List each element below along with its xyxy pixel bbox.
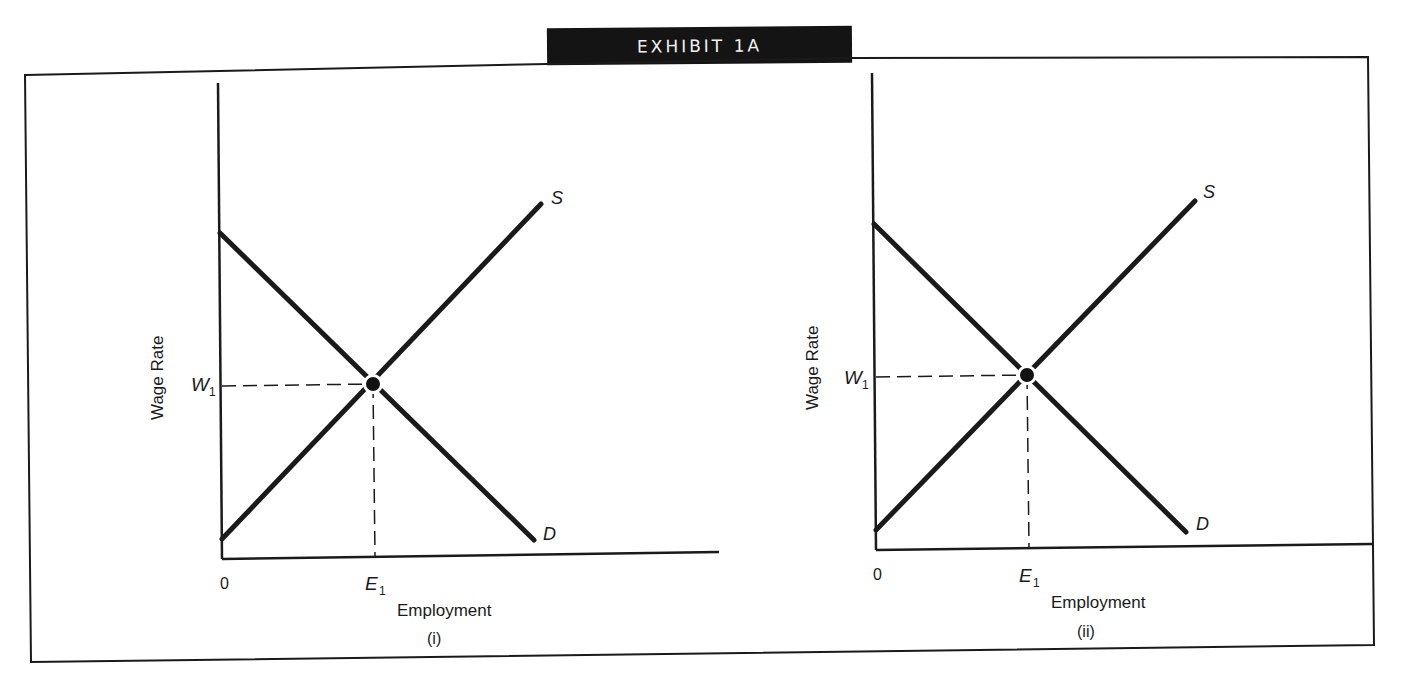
exhibit-frame: [25, 57, 1374, 662]
panel-caption: (ii): [1077, 623, 1095, 640]
y-axis: [872, 73, 876, 550]
origin-label: 0: [873, 566, 882, 583]
exhibit-canvas: S D W 1 0 E 1 Employment (i) Wage Rate: [0, 0, 1409, 688]
panel-ii: S D W 1 0 E 1 Employment (ii) Wage Rate: [803, 73, 1372, 640]
e1-label: E: [1019, 565, 1032, 586]
demand-label: D: [543, 524, 556, 544]
equilibrium-dot: [1020, 368, 1034, 382]
e1-label: E: [365, 573, 378, 594]
y-axis-label: Wage Rate: [148, 336, 167, 420]
supply-label: S: [551, 188, 563, 208]
e1-guide-dashed: [1027, 375, 1029, 548]
y-axis-label: Wage Rate: [803, 326, 822, 410]
w1-guide-dashed: [876, 375, 1027, 377]
w1-subscript: 1: [862, 378, 869, 392]
y-axis: [218, 83, 222, 559]
w1-subscript: 1: [209, 385, 216, 399]
supply-curve: [222, 204, 541, 539]
e1-guide-dashed: [373, 384, 375, 557]
equilibrium-dot: [366, 377, 380, 391]
x-axis: [222, 552, 719, 559]
panel-i: S D W 1 0 E 1 Employment (i) Wage Rate: [148, 83, 719, 647]
w1-label: W: [844, 367, 864, 388]
x-axis-label: Employment: [397, 601, 492, 620]
x-axis-label: Employment: [1051, 593, 1146, 612]
demand-label: D: [1196, 514, 1209, 534]
e1-subscript: 1: [1033, 576, 1040, 590]
e1-subscript: 1: [379, 584, 386, 598]
panel-caption: (i): [427, 630, 441, 647]
supply-curve: [876, 201, 1195, 530]
supply-label: S: [1203, 182, 1215, 202]
w1-label: W: [191, 374, 211, 395]
x-axis: [876, 544, 1372, 550]
origin-label: 0: [220, 575, 229, 592]
exhibit-figure: EXHIBIT 1A S D W 1 0 E 1 E: [0, 0, 1409, 688]
w1-guide-dashed: [222, 384, 373, 386]
